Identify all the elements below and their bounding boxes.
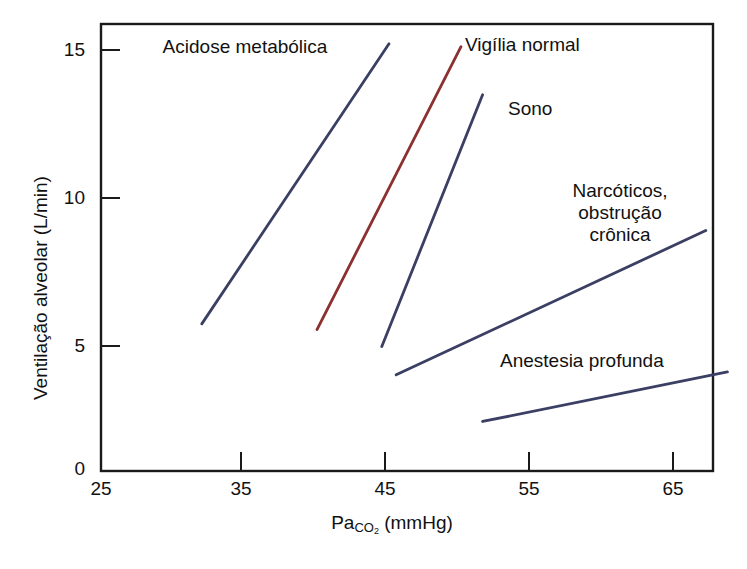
x-tick-label-45: 45 — [374, 478, 395, 500]
series-line-anestesia-profunda — [483, 372, 728, 422]
plot-frame — [101, 24, 713, 471]
x-tick-label-25: 25 — [90, 478, 111, 500]
series-label-narcoticos-obstrucao-cronica: Narcóticos, obstrução crônica — [557, 180, 684, 246]
series-label-anestesia-profunda: Anestesia profunda — [500, 350, 664, 372]
series-label-vigilia-normal: Vigília normal — [465, 34, 580, 56]
series-label-acidose-metabolica: Acidose metabólica — [163, 36, 328, 58]
axes-border — [101, 24, 713, 471]
y-tick-label-0: 0 — [40, 458, 85, 480]
x-axis-title-pre: Pa — [331, 512, 354, 533]
chart-figure: 15 10 5 0 25 35 45 55 65 PaCO2 (mmHg) Ve… — [0, 0, 747, 569]
y-tick-label-15: 15 — [40, 39, 85, 61]
x-axis-title-post: (mmHg) — [379, 512, 453, 533]
x-axis-title-sub-text: CO — [354, 520, 374, 535]
y-axis-title: Ventilação alveolar (L/min) — [30, 176, 52, 400]
y-axis-ticks — [101, 50, 120, 346]
series-line-vigilia-normal — [317, 47, 461, 330]
series-line-acidose-metabolica — [202, 44, 389, 324]
x-tick-label-65: 65 — [662, 478, 683, 500]
x-tick-label-35: 35 — [230, 478, 251, 500]
x-tick-label-55: 55 — [518, 478, 539, 500]
series-line-sono — [382, 95, 483, 347]
series-label-sono: Sono — [508, 98, 552, 120]
x-axis-title: PaCO2 (mmHg) — [331, 512, 453, 537]
x-axis-title-sub: CO2 — [354, 520, 379, 535]
x-axis-ticks — [241, 452, 673, 471]
